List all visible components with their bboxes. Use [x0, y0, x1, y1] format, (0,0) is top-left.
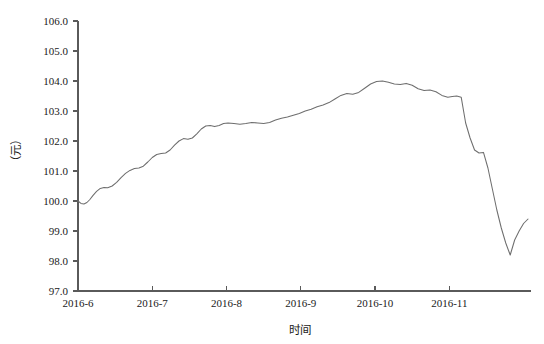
x-tick-label: 2016-9	[285, 297, 317, 309]
y-tick-label: 102.0	[43, 135, 68, 147]
chart-container: 97.098.099.0100.0101.0102.0103.0104.0105…	[0, 0, 544, 344]
y-tick-label: 98.0	[49, 255, 69, 267]
y-tick-label: 97.0	[49, 285, 69, 297]
x-tick-label: 2016-6	[62, 297, 94, 309]
x-tick-label: 2016-7	[137, 297, 169, 309]
x-axis-title: 时间	[289, 323, 311, 337]
y-tick-label: 100.0	[43, 195, 68, 207]
y-tick-label: 101.0	[43, 165, 68, 177]
line-chart: 97.098.099.0100.0101.0102.0103.0104.0105…	[0, 0, 544, 344]
x-tick-label: 2016-10	[357, 297, 394, 309]
y-tick-label: 99.0	[49, 225, 69, 237]
y-tick-label: 105.0	[43, 45, 68, 57]
x-tick-label: 2016-8	[211, 297, 243, 309]
y-tick-label: 106.0	[43, 15, 68, 27]
y-tick-label: 104.0	[43, 75, 68, 87]
y-tick-label: 103.0	[43, 105, 68, 117]
x-tick-label: 2016-11	[431, 297, 467, 309]
y-axis-title: （元）	[9, 134, 23, 167]
chart-background	[0, 0, 544, 344]
